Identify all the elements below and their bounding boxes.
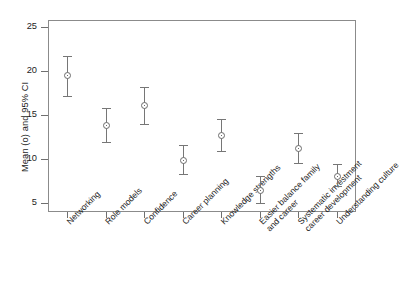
mean-marker[interactable] (334, 173, 341, 180)
error-bar-cap-lower (256, 203, 265, 204)
mean-marker[interactable] (103, 122, 110, 129)
y-axis-tick (41, 115, 48, 116)
error-bar-cap-lower (63, 96, 72, 97)
y-axis-tick-label: 20 (0, 66, 37, 75)
mean-marker[interactable] (180, 157, 187, 164)
y-axis-tick (41, 203, 48, 204)
error-bar-cap-upper (294, 133, 303, 134)
error-bar-cap-lower (333, 186, 342, 187)
error-bar-cap-upper (333, 164, 342, 165)
y-axis-tick-label: 10 (0, 154, 37, 163)
error-bar-cap-upper (217, 119, 226, 120)
y-axis-tick-label: 15 (0, 110, 37, 119)
error-bar-cap-upper (256, 176, 265, 177)
error-bar-cap-lower (140, 124, 149, 125)
error-bar-cap-lower (294, 163, 303, 164)
y-axis-tick-label: 25 (0, 22, 37, 31)
y-axis-tick (41, 27, 48, 28)
error-bar-cap-lower (102, 142, 111, 143)
y-axis-tick (41, 71, 48, 72)
y-axis-tick (41, 159, 48, 160)
error-bar-cap-upper (179, 145, 188, 146)
mean-marker[interactable] (257, 187, 264, 194)
error-bar-cap-upper (63, 56, 72, 57)
error-bar-cap-lower (217, 151, 226, 152)
error-bar-cap-upper (102, 108, 111, 109)
error-bar-cap-lower (179, 174, 188, 175)
y-axis-tick-label: 5 (0, 198, 37, 207)
error-bar-cap-upper (140, 87, 149, 88)
